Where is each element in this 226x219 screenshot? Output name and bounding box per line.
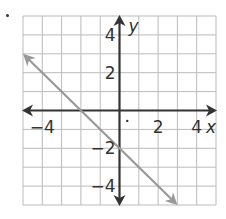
- svg-text:2: 2: [153, 117, 164, 137]
- svg-text:x: x: [205, 117, 217, 137]
- tick-labels: yx−42442−2−4: [30, 16, 217, 196]
- svg-text:2: 2: [105, 63, 116, 83]
- coordinate-plane: yx−42442−2−4: [0, 0, 226, 219]
- svg-text:4: 4: [105, 25, 116, 45]
- svg-text:y: y: [128, 16, 140, 36]
- svg-text:−4: −4: [90, 176, 115, 196]
- axes: [22, 15, 217, 206]
- svg-text:4: 4: [191, 117, 202, 137]
- svg-text:−2: −2: [90, 138, 115, 158]
- svg-text:−4: −4: [30, 117, 55, 137]
